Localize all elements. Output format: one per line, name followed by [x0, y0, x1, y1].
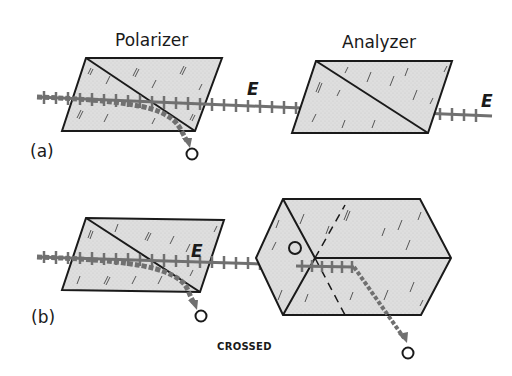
e-label-b: E	[191, 241, 203, 261]
e-label-middle: E	[247, 79, 259, 99]
diagram-canvas	[0, 0, 512, 376]
panel-b-label: (b)	[31, 307, 55, 327]
polarizer-title: Polarizer	[115, 30, 188, 50]
panel-a-label: (a)	[30, 141, 54, 161]
o-ray-exit-marker-b1	[196, 311, 207, 322]
panel-b	[37, 199, 451, 359]
analyzer-title: Analyzer	[342, 32, 416, 52]
polarization-diagram: Polarizer Analyzer E E (a) E (b) CROSSED	[0, 0, 512, 376]
crossed-caption: CROSSED	[217, 341, 272, 352]
panel-a	[37, 58, 492, 160]
o-ray-exit-marker-b2	[403, 348, 414, 359]
o-ray-exit-marker-a	[187, 149, 198, 160]
analyzer-prism-b-crossed	[256, 199, 451, 315]
e-label-right: E	[481, 91, 493, 111]
polarizer-prism-a	[62, 58, 222, 131]
analyzer-prism-a	[292, 61, 452, 133]
